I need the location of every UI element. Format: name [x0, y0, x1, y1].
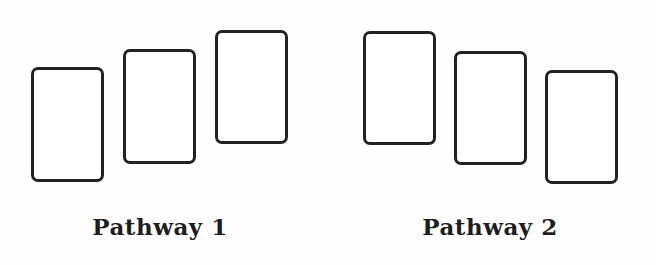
pathway-1-label: Pathway 1: [70, 212, 250, 242]
pathway-2-label: Pathway 2: [400, 212, 580, 242]
pathway-1-card-2: [123, 49, 196, 164]
pathway-1-card-3: [215, 30, 288, 144]
pathway-2-card-2: [454, 51, 527, 165]
pathway-1-card-1: [31, 67, 104, 182]
pathway-2-card-1: [363, 31, 436, 145]
tarot-spread-diagram: Pathway 1 Pathway 2: [0, 0, 656, 265]
pathway-2-card-3: [545, 70, 618, 184]
